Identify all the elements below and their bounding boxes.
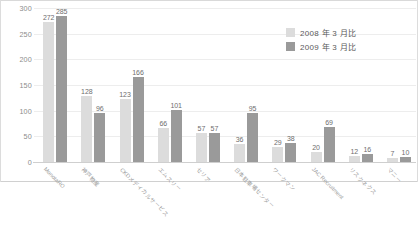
chart-legend: 2008 年 3 月比 2009 年 3 月比 [286,26,396,54]
legend-item-label: 2009 年 3 月比 [300,41,356,52]
bar-value-label: 16 [355,146,379,153]
y-axis: 050100150200250300 [0,0,32,182]
bar [196,133,207,162]
y-axis-tick-label: 150 [6,81,32,90]
bar-group: 66101 [158,8,182,162]
bar-value-label: 285 [50,8,74,15]
legend-swatch-icon [286,42,295,51]
legend-item: 2008 年 3 月比 [286,26,396,38]
bar-group: 123166 [120,8,144,162]
bar-group: 12896 [81,8,105,162]
bar-value-label: 166 [126,69,150,76]
bar-value-label: 10 [393,149,417,156]
bar-group: 3695 [234,8,258,162]
bar-value-label: 38 [279,135,303,142]
bar [171,110,182,162]
bar-value-label: 69 [317,119,341,126]
bar [120,99,131,162]
bar-value-label: 95 [241,105,265,112]
legend-item: 2009 年 3 月比 [286,40,396,52]
legend-swatch-icon [286,28,295,37]
y-axis-tick-label: 0 [6,158,32,167]
bar [362,154,373,162]
bar [133,77,144,162]
bar-group: 5757 [196,8,220,162]
bar [285,143,296,163]
bar [56,16,67,162]
bar [43,22,54,162]
bar [247,113,258,162]
chart-screenshot: 050100150200250300 272285128961231666610… [0,0,418,240]
bar-value-label: 101 [164,102,188,109]
bar [311,152,322,162]
legend-item-label: 2008 年 3 月比 [300,27,356,38]
bar [158,128,169,162]
y-axis-tick-label: 50 [6,132,32,141]
bar [94,113,105,162]
bar-value-label: 57 [202,125,226,132]
y-axis-tick-label: 200 [6,55,32,64]
bar-group: 272285 [43,8,67,162]
bar [272,147,283,162]
bar-value-label: 128 [75,88,99,95]
bar [234,144,245,162]
y-axis-tick-label: 100 [6,106,32,115]
x-axis-baseline [33,162,416,163]
y-axis-tick-label: 250 [6,29,32,38]
bar [209,133,220,162]
y-axis-tick-label: 300 [6,4,32,13]
bar [324,127,335,162]
bar-value-label: 96 [88,105,112,112]
